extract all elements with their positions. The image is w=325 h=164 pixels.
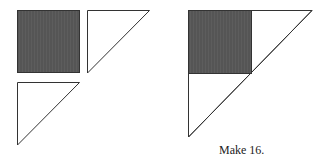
instruction-caption: Make 16. bbox=[219, 143, 264, 158]
assembled-unit bbox=[189, 11, 313, 138]
quilt-diagram bbox=[0, 0, 325, 164]
assembled-dark-square bbox=[189, 11, 252, 74]
unassembled-pieces bbox=[18, 11, 150, 146]
dark-square-piece bbox=[18, 11, 80, 73]
bottom-triangle-piece bbox=[18, 83, 80, 146]
top-right-triangle-piece bbox=[88, 11, 150, 74]
